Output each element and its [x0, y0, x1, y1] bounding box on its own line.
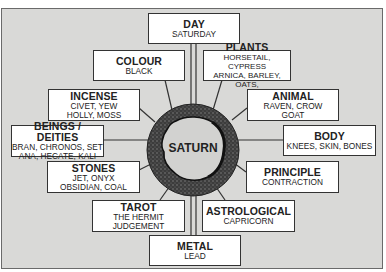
node-principle: PRINCIPLE CONTRACTION [246, 161, 339, 193]
node-value: LEAD [150, 252, 240, 261]
node-value: SATURDAY [149, 30, 239, 39]
node-value: JUDGEMENT [93, 222, 184, 231]
node-value: ARNICA, BARLEY, OATS, [204, 71, 290, 89]
node-value: BLACK [94, 67, 184, 76]
node-title: INCENSE [49, 91, 139, 102]
node-value: HORSETAIL, CYPRESS [204, 53, 290, 71]
node-value: CONTRACTION [247, 178, 338, 187]
node-title: PLANTS [204, 42, 290, 53]
node-plants: PLANTS HORSETAIL, CYPRESS ARNICA, BARLEY… [203, 50, 291, 81]
node-title: METAL [150, 241, 240, 252]
node-tarot: TAROT THE HERMIT JUDGEMENT [92, 200, 185, 232]
node-value: GOAT [248, 111, 338, 120]
node-stones: STONES JET, ONYX OBSIDIAN, COAL [47, 161, 140, 193]
node-incense: INCENSE CIVET, YEW HOLLY, MOSS [48, 89, 140, 121]
node-value: CAPRICORN [203, 217, 294, 226]
node-metal: METAL LEAD [149, 235, 241, 266]
node-title: TAROT [93, 202, 184, 213]
node-day: DAY SATURDAY [148, 13, 240, 44]
node-title: BEINGS / DEITIES [12, 121, 103, 143]
center-label-saturn: SATURN [163, 141, 223, 155]
node-title: DAY [149, 19, 239, 30]
node-colour: COLOUR BLACK [93, 50, 185, 81]
node-beings-deities: BEINGS / DEITIES BRAN, CHRONOS, SET ANA,… [11, 125, 104, 157]
node-animal: ANIMAL RAVEN, CROW GOAT [247, 89, 339, 121]
node-body: BODY KNEES, SKIN, BONES [283, 125, 376, 156]
node-title: COLOUR [94, 56, 184, 67]
node-value: HOLLY, MOSS [49, 111, 139, 120]
node-title: BODY [284, 131, 375, 142]
node-value: KNEES, SKIN, BONES [284, 142, 375, 151]
node-title: STONES [48, 163, 139, 174]
node-value: ANA, HECATE, KALI [12, 152, 103, 161]
node-value: OBSIDIAN, COAL [48, 183, 139, 192]
node-astrological: ASTROLOGICAL CAPRICORN [202, 200, 295, 232]
node-title: ANIMAL [248, 91, 338, 102]
